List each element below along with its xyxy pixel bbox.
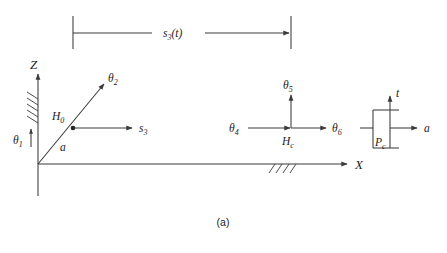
kinematic-chain-diagram: s3(t) Z θ1 X: [0, 0, 447, 253]
link-a-label: a: [60, 141, 66, 153]
theta4-sub: 4: [235, 128, 239, 137]
z-axis-label: Z: [30, 57, 38, 72]
theta6-label: θ6: [332, 122, 342, 137]
s3-label: s3: [139, 122, 147, 137]
tool-t-axis-label: t: [396, 87, 400, 99]
dimension-line-s3t: s3(t): [73, 16, 291, 49]
point-H0-group: H0 s3: [51, 110, 147, 137]
theta6-sub: 6: [338, 128, 342, 137]
H0-label: H0: [51, 110, 64, 125]
ground-hatching-vertical: [27, 92, 38, 123]
ground-hatching-horizontal: [269, 164, 296, 173]
Hc-sub: c: [290, 141, 294, 150]
theta1-label: θ1: [13, 134, 23, 149]
joint-theta1-group: θ1: [13, 129, 31, 149]
theta5-sub: 5: [289, 85, 293, 94]
Hc-label: Hc: [281, 135, 294, 150]
theta2-diagonal-arrow: [38, 84, 104, 164]
figure-container: s3(t) Z θ1 X: [0, 0, 447, 253]
x-axis-group: X: [38, 157, 364, 173]
theta2-sub: 2: [114, 78, 118, 87]
theta5-label: θ5: [283, 79, 293, 94]
point-Hc-group: θ4 θ5 θ6 Hc: [229, 79, 342, 150]
x-axis-label: X: [354, 157, 364, 172]
Pc-sub: c: [382, 142, 386, 151]
tool-a-axis-label: a: [424, 122, 430, 134]
z-axis-group: Z: [27, 57, 38, 196]
dimension-label-s3t: s3(t): [163, 27, 183, 42]
figure-caption: (a): [217, 216, 230, 228]
Pc-base: P: [374, 136, 382, 148]
tool-frame-Pc-group: t a Pc: [360, 87, 430, 151]
theta1-sub: 1: [19, 140, 23, 149]
s3-sub: 3: [142, 128, 147, 137]
theta2-label: θ2: [108, 72, 118, 87]
theta4-label: θ4: [229, 122, 239, 137]
dimension-label-arg: (t): [171, 27, 182, 40]
H0-sub: 0: [60, 116, 64, 125]
link-a-theta2-group: θ2 a: [38, 72, 118, 164]
Pc-label: Pc: [374, 136, 386, 151]
